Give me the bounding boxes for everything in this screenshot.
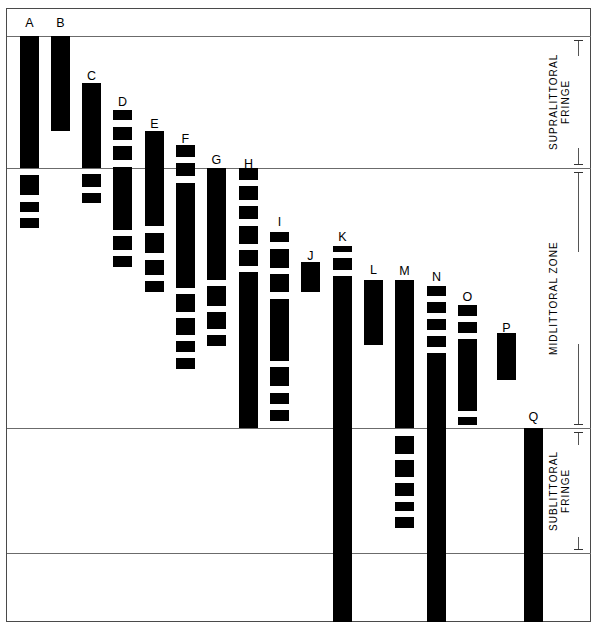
bar-segment-q-0	[524, 428, 543, 622]
bar-segment-f-5	[176, 341, 195, 352]
zone-line-3	[7, 553, 591, 554]
column-label-q: Q	[516, 411, 551, 424]
bar-segment-h-3	[239, 226, 258, 244]
bar-segment-d-2	[113, 146, 132, 160]
bar-segment-m-5	[395, 517, 414, 528]
zonation-figure: ABCDEFGHIJKLMNOPQ SUPRALITTORAL FRINGEMI…	[0, 0, 599, 630]
zone-tick-sublittoral-top	[574, 432, 583, 433]
column-label-f: F	[168, 133, 203, 146]
bar-segment-a-1	[20, 175, 39, 195]
zone-label-midlittoral: MIDLITTORAL ZONE	[548, 238, 578, 358]
bar-segment-g-2	[207, 312, 226, 329]
column-label-p: P	[489, 322, 524, 335]
column-label-c: C	[74, 70, 109, 83]
bar-segment-l-0	[364, 280, 383, 345]
zone-tick-sublittoral-bottom	[574, 549, 583, 550]
bar-segment-h-5	[239, 272, 258, 428]
column-label-j: J	[293, 250, 328, 263]
bar-segment-f-3	[176, 294, 195, 312]
zone-tick-supralittoral-top	[574, 40, 583, 41]
bar-segment-i-4	[270, 367, 289, 386]
zone-tick-midlittoral-top	[574, 172, 583, 173]
bar-segment-o-3	[458, 417, 477, 425]
zone-bracket-upper-midlittoral	[578, 172, 579, 252]
bar-segment-i-3	[270, 299, 289, 361]
bar-segment-a-0	[20, 36, 39, 168]
zone-line-2	[7, 428, 591, 429]
bar-segment-n-0	[427, 286, 446, 296]
column-label-e: E	[137, 118, 172, 131]
bar-segment-a-2	[20, 202, 39, 212]
zone-bracket-upper-sublittoral	[578, 432, 579, 445]
zone-bracket-lower-sublittoral	[578, 537, 579, 550]
bar-segment-m-1	[395, 436, 414, 454]
bar-segment-f-6	[176, 358, 195, 369]
bar-segment-b-0	[51, 36, 70, 131]
bar-segment-e-2	[145, 260, 164, 275]
column-label-m: M	[387, 265, 422, 278]
bar-segment-o-2	[458, 339, 477, 411]
bar-segment-d-4	[113, 236, 132, 250]
zone-tick-supralittoral-bottom	[574, 164, 583, 165]
zone-tick-midlittoral-bottom	[574, 424, 583, 425]
column-label-h: H	[231, 158, 266, 171]
bar-segment-h-2	[239, 206, 258, 219]
bar-segment-d-3	[113, 167, 132, 230]
bar-segment-f-1	[176, 163, 195, 176]
bar-segment-i-6	[270, 410, 289, 421]
bar-segment-h-1	[239, 186, 258, 200]
zone-label-sublittoral: SUBLITTORAL FRINGE	[548, 431, 578, 551]
bar-segment-n-2	[427, 319, 446, 330]
bar-segment-a-3	[20, 218, 39, 228]
bar-segment-k-2	[333, 276, 352, 622]
zone-bracket-lower-supralittoral	[578, 148, 579, 164]
bar-segment-e-0	[145, 131, 164, 226]
zone-bracket-lower-midlittoral	[578, 344, 579, 424]
bar-segment-d-1	[113, 127, 132, 140]
bar-segment-d-0	[113, 110, 132, 120]
bar-segment-c-2	[82, 193, 101, 203]
bar-segment-m-3	[395, 483, 414, 496]
bar-segment-c-0	[82, 83, 101, 168]
column-label-n: N	[419, 271, 454, 284]
column-label-a: A	[12, 17, 47, 30]
bar-segment-e-3	[145, 281, 164, 292]
bar-segment-n-3	[427, 336, 446, 347]
bar-segment-o-0	[458, 305, 477, 316]
bar-segment-i-2	[270, 274, 289, 292]
zone-bracket-upper-supralittoral	[578, 40, 579, 56]
bar-segment-k-0	[333, 246, 352, 252]
column-label-g: G	[199, 154, 234, 167]
bar-segment-i-1	[270, 249, 289, 268]
zone-label-supralittoral: SUPRALITTORAL FRINGE	[548, 42, 578, 162]
bar-segment-f-2	[176, 183, 195, 288]
column-label-d: D	[105, 96, 140, 109]
bar-segment-g-1	[207, 286, 226, 306]
bar-segment-o-1	[458, 322, 477, 333]
zone-line-1	[7, 168, 591, 169]
bar-segment-e-1	[145, 233, 164, 253]
bar-segment-g-0	[207, 168, 226, 280]
bar-segment-n-1	[427, 302, 446, 313]
bar-segment-m-0	[395, 280, 414, 428]
bar-segment-j-0	[301, 262, 320, 292]
bar-segment-c-1	[82, 174, 101, 187]
bar-segment-h-4	[239, 250, 258, 266]
zone-line-0	[7, 36, 591, 37]
bar-segment-f-0	[176, 145, 195, 157]
column-label-k: K	[325, 231, 360, 244]
bar-segment-f-4	[176, 318, 195, 335]
column-label-b: B	[43, 17, 78, 30]
bar-segment-m-2	[395, 460, 414, 477]
bar-segment-m-4	[395, 502, 414, 511]
column-label-i: I	[262, 216, 297, 229]
bar-segment-k-1	[333, 258, 352, 270]
bar-segment-p-0	[497, 333, 516, 380]
bar-segment-g-3	[207, 335, 226, 346]
column-label-o: O	[450, 291, 485, 304]
bar-segment-i-0	[270, 232, 289, 242]
column-label-l: L	[356, 264, 391, 277]
bar-segment-d-5	[113, 256, 132, 267]
bar-segment-n-4	[427, 353, 446, 622]
bar-segment-i-5	[270, 393, 289, 404]
